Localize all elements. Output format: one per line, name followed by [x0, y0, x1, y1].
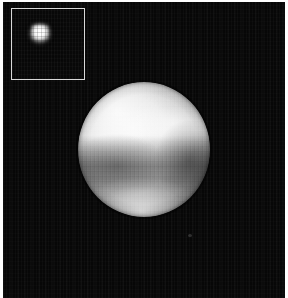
limb-darkening: [78, 82, 210, 217]
pluto-disk: [78, 82, 210, 217]
sky-background-field: [3, 2, 285, 298]
pluto-raw-blob-core: [32, 25, 49, 40]
pluto-disk-body: [78, 82, 210, 217]
background-speck: [188, 234, 192, 237]
figure-root: [0, 0, 288, 298]
raw-frame-inset: [11, 8, 85, 80]
